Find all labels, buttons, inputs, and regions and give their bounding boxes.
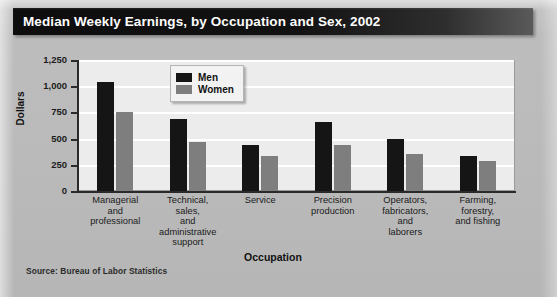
- bar-women: [406, 154, 423, 191]
- x-axis-category-label: Technical,sales,andadministrativesupport: [152, 195, 225, 248]
- y-axis-tick: [71, 165, 78, 167]
- bar-men: [460, 156, 477, 191]
- legend-label-men: Men: [198, 72, 218, 83]
- bar-women: [334, 145, 351, 191]
- y-axis-tick-label: 500: [15, 133, 67, 144]
- bar-group: [442, 61, 515, 191]
- chart-legend: Men Women: [170, 65, 244, 102]
- bar-men: [315, 122, 332, 191]
- x-axis-category-label: Precisionproduction: [297, 195, 370, 248]
- chart-canvas: 1,2501,0007505002500 Dollars Manageriala…: [13, 41, 533, 289]
- y-axis-tick: [71, 139, 78, 141]
- bar-women: [261, 156, 278, 191]
- legend-swatch-women-icon: [176, 85, 192, 94]
- bar-women: [189, 142, 206, 191]
- legend-item-women: Women: [176, 84, 234, 95]
- y-axis-tick-label: 1,250: [15, 54, 67, 65]
- y-axis-title: Dollars: [15, 92, 26, 126]
- source-note: Source: Bureau of Labor Statistics: [26, 266, 167, 276]
- page-title: Median Weekly Earnings, by Occupation an…: [13, 14, 380, 29]
- x-axis-line: [77, 191, 516, 193]
- x-axis-category-label: Service: [224, 195, 297, 248]
- y-axis-tick: [71, 60, 78, 62]
- bar-women: [479, 161, 496, 191]
- bar-men: [387, 139, 404, 191]
- y-axis-tick-label: 0: [15, 185, 67, 196]
- y-axis-tick-label: 250: [15, 159, 67, 170]
- bar-group: [79, 61, 152, 191]
- bar-women: [116, 112, 133, 191]
- bar-men: [242, 145, 259, 191]
- x-axis-category-label: Farming,forestry,and fishing: [442, 195, 515, 248]
- y-axis-tick: [71, 191, 78, 193]
- legend-item-men: Men: [176, 72, 234, 83]
- chart-title-bar: Median Weekly Earnings, by Occupation an…: [13, 8, 533, 35]
- bar-series-container: [79, 61, 514, 191]
- legend-label-women: Women: [198, 84, 234, 95]
- x-axis-title: Occupation: [13, 251, 533, 263]
- y-axis-tick: [71, 86, 78, 88]
- x-axis-category-labels: ManagerialandprofessionalTechnical,sales…: [79, 195, 514, 248]
- bar-group: [297, 61, 370, 191]
- y-axis-tick: [71, 112, 78, 114]
- x-axis-category-label: Managerialandprofessional: [79, 195, 152, 248]
- x-axis-category-label: Operators,fabricators,andlaborers: [369, 195, 442, 248]
- legend-swatch-men-icon: [176, 73, 192, 82]
- bar-men: [97, 82, 114, 191]
- bar-group: [369, 61, 442, 191]
- bar-men: [170, 119, 187, 191]
- chart-figure: Median Weekly Earnings, by Occupation an…: [0, 0, 557, 297]
- y-axis-tick-label: 1,000: [15, 80, 67, 91]
